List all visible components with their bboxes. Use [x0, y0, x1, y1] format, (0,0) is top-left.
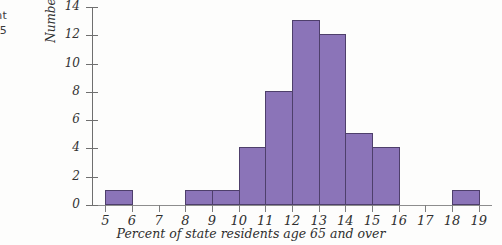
cutoff-caption-line-2: e 65	[0, 23, 42, 38]
histogram-bar	[105, 190, 133, 205]
histogram-bar	[292, 20, 320, 205]
x-tick-mark	[212, 205, 213, 212]
y-tick-mark	[86, 7, 98, 8]
x-tick-mark	[292, 205, 293, 212]
x-tick-mark	[132, 205, 133, 212]
x-tick-mark	[479, 205, 480, 212]
x-axis-label: Percent of state residents age 65 and ov…	[0, 226, 502, 241]
y-tick-label: 4	[56, 140, 80, 154]
y-tick-label: 10	[56, 56, 80, 70]
x-tick-mark	[319, 205, 320, 212]
histogram-bar	[452, 190, 480, 205]
y-tick-mark	[86, 35, 98, 36]
y-tick-label: 8	[56, 84, 80, 98]
histogram-bar	[319, 34, 347, 205]
x-tick-mark	[372, 205, 373, 212]
x-tick-mark	[452, 205, 453, 212]
histogram-figure: cent e 65 Number of states 02468101214 5…	[0, 0, 502, 245]
y-tick-mark	[86, 64, 98, 65]
x-tick-mark	[425, 205, 426, 212]
x-tick-mark	[345, 205, 346, 212]
x-tick-mark	[185, 205, 186, 212]
cutoff-caption-line-1: cent	[0, 8, 42, 23]
y-tick-mark	[86, 120, 98, 121]
y-tick-mark	[86, 177, 98, 178]
y-tick-label: 6	[56, 112, 80, 126]
y-tick-mark	[86, 92, 98, 93]
histogram-bar	[212, 190, 240, 205]
y-tick-label: 12	[56, 27, 80, 41]
histogram-bar	[372, 147, 400, 205]
x-tick-mark	[399, 205, 400, 212]
x-tick-mark	[159, 205, 160, 212]
y-tick-mark	[86, 148, 98, 149]
y-tick-label: 14	[56, 0, 80, 13]
cutoff-caption: cent e 65	[0, 8, 42, 38]
histogram-bar	[345, 133, 373, 205]
y-tick-label: 2	[56, 169, 80, 183]
histogram-bar	[265, 91, 293, 205]
x-tick-mark	[265, 205, 266, 212]
y-tick-mark	[86, 205, 98, 206]
x-tick-mark	[239, 205, 240, 212]
histogram-bar	[185, 190, 213, 205]
plot-area: 02468101214 5678910111213141516171819	[92, 7, 492, 205]
x-tick-mark	[105, 205, 106, 212]
y-tick-label: 0	[56, 197, 80, 211]
histogram-bar	[239, 147, 267, 205]
